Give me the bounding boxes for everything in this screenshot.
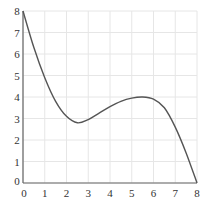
y-tick-labels: 012345678 (14, 5, 20, 187)
x-tick-label: 8 (194, 187, 200, 199)
x-tick-label: 3 (86, 187, 92, 199)
x-tick-label: 2 (64, 187, 70, 199)
y-tick-label: 2 (14, 134, 20, 146)
y-tick-label: 5 (14, 70, 20, 82)
x-tick-label: 4 (107, 187, 113, 199)
x-tick-label: 5 (129, 187, 135, 199)
line-chart: 012345678 012345678 (0, 0, 211, 209)
y-tick-label: 4 (14, 91, 20, 103)
x-tick-label: 0 (21, 187, 27, 199)
grid-lines (23, 11, 197, 183)
x-tick-label: 7 (173, 187, 179, 199)
y-tick-label: 6 (14, 48, 20, 60)
x-tick-labels: 012345678 (21, 187, 200, 199)
y-tick-label: 7 (14, 27, 20, 39)
x-tick-label: 6 (151, 187, 157, 199)
y-tick-label: 3 (14, 113, 20, 125)
x-tick-label: 1 (42, 187, 48, 199)
y-tick-label: 8 (14, 5, 20, 17)
y-tick-label: 1 (14, 156, 20, 168)
y-tick-label: 0 (14, 175, 20, 187)
